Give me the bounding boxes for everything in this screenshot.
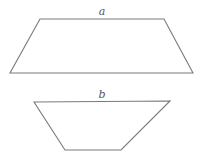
trapezoid-a-group: a xyxy=(10,5,193,73)
diagram-canvas: a b xyxy=(0,0,201,158)
trapezoid-b-group: b xyxy=(34,88,170,150)
label-b: b xyxy=(98,88,105,101)
trapezoid-b xyxy=(34,101,170,150)
trapezoid-a xyxy=(10,19,193,73)
label-a: a xyxy=(99,5,106,18)
